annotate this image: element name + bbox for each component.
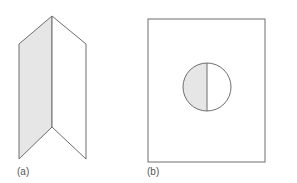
- panel-a-label: (a): [17, 166, 29, 177]
- right-face: [52, 16, 86, 159]
- panel-a-folded-sheet: [19, 16, 86, 159]
- shaded-left-face: [19, 16, 52, 159]
- figure-canvas: [0, 0, 297, 183]
- panel-b-label: (b): [147, 166, 159, 177]
- panel-b-rectangle-with-circle: [148, 19, 265, 162]
